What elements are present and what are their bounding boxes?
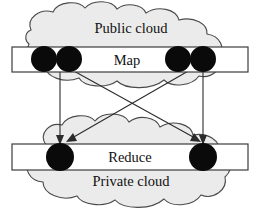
reduce-bar-group: Reduce xyxy=(12,143,248,171)
diagram-canvas: Public cloud Private cloud xyxy=(0,0,261,215)
private-cloud-label: Private cloud xyxy=(93,173,171,189)
mapreduce-cloud-diagram: Public cloud Private cloud xyxy=(0,0,261,215)
map-node-2 xyxy=(56,46,82,72)
map-node-1 xyxy=(31,46,57,72)
public-cloud-group: Public cloud xyxy=(26,2,222,88)
reduce-node-1 xyxy=(46,143,74,171)
map-node-4 xyxy=(190,46,216,72)
reduce-node-2 xyxy=(189,143,217,171)
map-node-3 xyxy=(165,46,191,72)
public-cloud-shape xyxy=(26,2,222,88)
map-bar-label: Map xyxy=(114,52,141,68)
public-cloud-label: Public cloud xyxy=(95,20,169,36)
map-bar-group: Map xyxy=(12,46,248,72)
reduce-bar-label: Reduce xyxy=(108,149,151,165)
edge-map4-reduce2 xyxy=(199,70,207,145)
